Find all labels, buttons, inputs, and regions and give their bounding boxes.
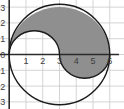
coordinate-plot: 123456 3210-1-2-3 [0,0,124,109]
x-tick-label: 1 [23,56,28,66]
x-tick-label: 3 [57,56,62,66]
y-tick-label: 3 [0,3,5,13]
y-tick-label: 0 [0,50,5,60]
y-tick-label: -1 [0,66,5,76]
x-tick-label: 5 [90,56,95,66]
x-tick-label: 2 [40,56,45,66]
x-tick-label: 6 [107,56,112,66]
y-tick-label: -2 [0,82,5,92]
y-tick-label: 2 [0,18,5,28]
chart-figure: 123456 3210-1-2-3 [0,0,124,109]
y-tick-label: -3 [0,97,5,107]
y-tick-label: 1 [0,34,5,44]
x-tick-label: 4 [74,56,79,66]
